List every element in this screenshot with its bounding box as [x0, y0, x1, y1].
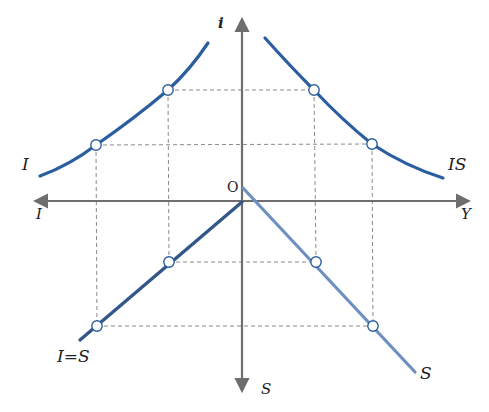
point-saving-low	[311, 257, 321, 267]
point-i-equals-s-high	[92, 321, 102, 331]
point-saving-high	[368, 321, 378, 331]
point-i-equals-s-low	[164, 257, 174, 267]
point-investment-high	[163, 85, 173, 95]
guide-vertical-low-income	[314, 90, 316, 262]
point-investment-low	[91, 140, 101, 150]
guide-vertical-low-investment	[168, 90, 169, 262]
investment-curve	[40, 43, 208, 176]
i-equals-s-line	[80, 202, 242, 340]
axis-label-saving: S	[261, 380, 271, 398]
guide-vertical-high-income	[372, 144, 373, 326]
axis-label-income: Y	[461, 205, 473, 223]
point-is-low-rate	[367, 139, 377, 149]
guide-horizontal-low-rate	[96, 144, 372, 145]
saving-line	[243, 188, 415, 372]
curve-label-investment: I	[21, 154, 29, 174]
origin-label: O	[227, 179, 238, 195]
guide-vertical-high-investment	[96, 145, 97, 326]
curve-label-i-equals-s: I=S	[56, 346, 90, 366]
curve-label-saving: S	[420, 363, 432, 383]
axis-label-investment: I	[35, 205, 43, 223]
is-curve	[265, 38, 443, 178]
axes	[36, 20, 468, 390]
point-is-high-rate	[309, 85, 319, 95]
is-curve-diagram: i Y I S O I IS I=S S	[0, 0, 489, 412]
axis-label-interest-rate: i	[218, 14, 224, 32]
curve-label-is: IS	[447, 154, 466, 174]
